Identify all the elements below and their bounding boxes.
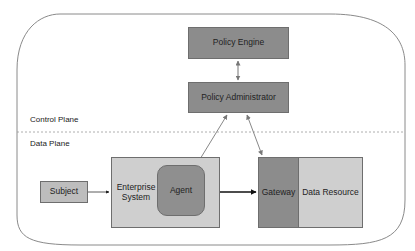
subject-node: Subject <box>40 181 88 203</box>
control-plane-label: Control Plane <box>30 115 78 124</box>
policy-engine-node: Policy Engine <box>188 27 289 59</box>
policy-engine-label: Policy Engine <box>213 38 265 48</box>
subject-label: Subject <box>50 187 78 197</box>
data-plane-label: Data Plane <box>30 139 70 148</box>
data-resource-node: Data Resource <box>298 157 363 228</box>
data-resource-label: Data Resource <box>302 188 359 198</box>
agent-label: Agent <box>170 186 192 196</box>
gateway-node: Gateway <box>258 157 299 228</box>
policy-administrator-node: Policy Administrator <box>188 82 289 113</box>
edge-pa-gateway <box>247 115 262 155</box>
agent-node: Agent <box>157 165 205 216</box>
gateway-label: Gateway <box>262 188 296 198</box>
policy-administrator-label: Policy Administrator <box>201 93 276 103</box>
enterprise-system-label: Enterprise System <box>114 183 158 203</box>
